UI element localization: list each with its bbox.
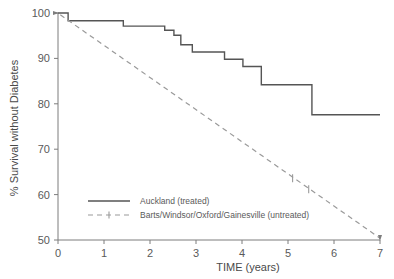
y-tick-label: 50 (38, 234, 50, 246)
legend-label-0: Auckland (treated) (140, 196, 210, 206)
x-tick-label: 4 (239, 247, 245, 259)
series-line-1 (60, 15, 380, 238)
legend-label-1: Barts/Windsor/Oxford/Gainesville (untrea… (140, 210, 309, 220)
series-line-0 (58, 13, 380, 115)
survival-chart: 506070809010001234567TIME (years)% Survi… (0, 0, 394, 279)
x-axis-title: TIME (years) (216, 261, 280, 273)
y-tick-label: 80 (38, 98, 50, 110)
y-axis-title: % Survival without Diabetes (8, 59, 20, 196)
x-tick-label: 3 (193, 247, 199, 259)
x-tick-label: 1 (101, 247, 107, 259)
x-tick-label: 5 (285, 247, 291, 259)
x-tick-label: 6 (331, 247, 337, 259)
chart-canvas: 506070809010001234567TIME (years)% Survi… (0, 0, 394, 279)
y-tick-label: 90 (38, 52, 50, 64)
y-tick-label: 70 (38, 143, 50, 155)
y-tick-label: 60 (38, 189, 50, 201)
x-tick-label: 2 (147, 247, 153, 259)
x-tick-label: 0 (55, 247, 61, 259)
x-tick-label: 7 (377, 247, 383, 259)
y-tick-label: 100 (32, 7, 50, 19)
